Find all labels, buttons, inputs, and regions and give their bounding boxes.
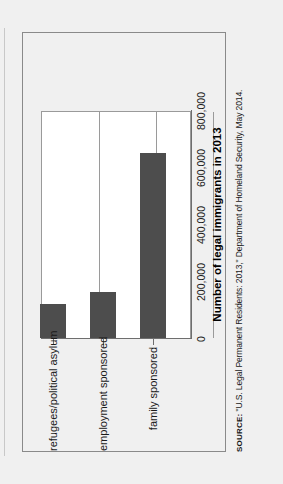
category-tick-2: [153, 339, 154, 345]
figure-page: refugees/political asylum employment spo…: [0, 0, 283, 484]
category-label-refugees-political-asylum: refugees/political asylum: [47, 347, 59, 451]
bar-family-sponsored: [140, 153, 166, 338]
source-kicker: SOURCE:: [235, 414, 244, 452]
value-axis-line: [191, 110, 192, 339]
source-note: SOURCE: "U.S. Legal Permanent Residents:…: [234, 32, 244, 452]
value-axis-title: Number of legal immigrants in 2013: [211, 110, 223, 339]
figure-frame: refugees/political asylum employment spo…: [22, 32, 226, 452]
tick-label-200000: 200,000: [195, 263, 207, 301]
tick-label-400000: 400,000: [195, 206, 207, 244]
source-text: "U.S. Legal Permanent Residents: 2013," …: [234, 90, 244, 414]
rotated-chart-container: refugees/political asylum employment spo…: [22, 32, 262, 452]
tick-label-800000: 800,000: [195, 92, 207, 130]
category-label-family-sponsored: family sponsored: [147, 347, 159, 451]
category-label-employment-sponsored: employment sponsored: [97, 347, 109, 451]
tick-label-0: 0: [195, 336, 207, 342]
bar-employment-sponsored: [90, 292, 116, 338]
tick-label-600000: 600,000: [195, 149, 207, 187]
category-axis-line: [41, 338, 192, 339]
page-gutter-rule: [4, 28, 5, 456]
